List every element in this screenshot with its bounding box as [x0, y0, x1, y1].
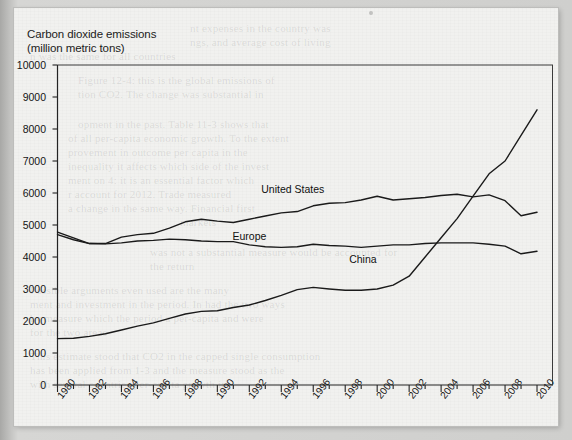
series-line-china	[58, 110, 538, 339]
series-label-europe: Europe	[233, 230, 267, 242]
series-label-china: China	[349, 253, 376, 265]
data-series-group	[58, 110, 538, 339]
y-axis-ticks	[53, 65, 58, 385]
series-line-europe	[58, 235, 538, 254]
chart-figure: Carbon dioxide emissions (million metric…	[0, 0, 572, 440]
axes	[58, 65, 554, 385]
x-axis-ticks	[58, 385, 538, 392]
series-line-united-states	[58, 194, 538, 243]
plot-canvas	[0, 0, 572, 440]
series-label-united-states: United States	[261, 183, 324, 195]
